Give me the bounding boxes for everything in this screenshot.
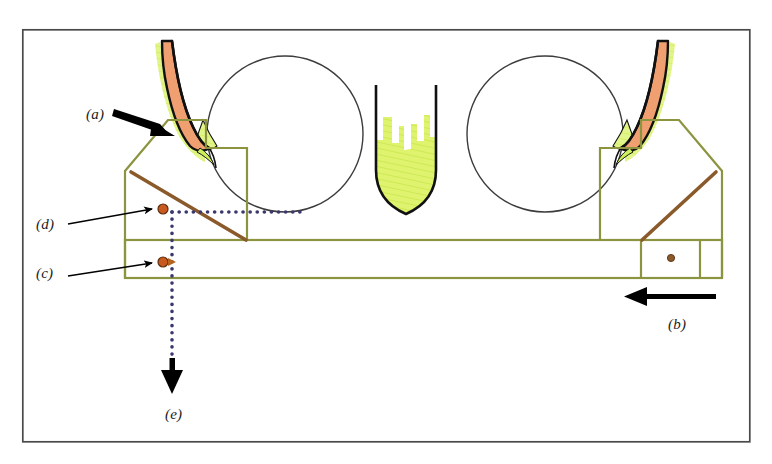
outer-border (23, 30, 750, 442)
pivot-c (158, 257, 168, 267)
arrow-b (624, 287, 716, 306)
right-connecting-rod (642, 172, 716, 240)
pivot-c-wedge (168, 258, 176, 266)
figure-root: (a) (d) (c) (b) (e) (0, 0, 772, 464)
arrow-d-line (68, 209, 152, 224)
carriage-bar (125, 240, 722, 278)
label-e: (e) (165, 406, 182, 423)
label-d: (d) (36, 216, 54, 233)
left-roller (207, 56, 363, 212)
label-b: (b) (668, 316, 686, 333)
center-material-mass (376, 58, 436, 214)
arrow-e (161, 358, 183, 394)
label-a: (a) (86, 106, 104, 123)
label-c: (c) (36, 265, 53, 282)
arrow-c-line (68, 263, 152, 276)
pivot-right (667, 254, 674, 261)
diagram-canvas (0, 0, 772, 464)
pivot-d (158, 204, 168, 214)
